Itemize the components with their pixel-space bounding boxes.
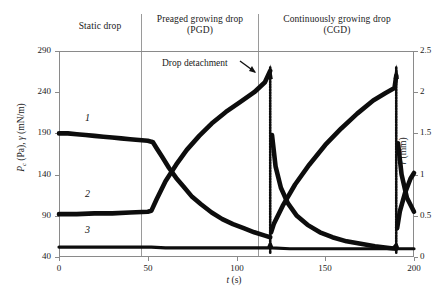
curve-radius-segment-2 [397,173,414,228]
curve-radius-segment-0 [59,71,270,214]
data-curves [0,0,448,295]
detachment-spike-tip-1 [394,64,399,79]
figure-root: Static drop Preaged growing drop (PGD) C… [0,0,448,295]
